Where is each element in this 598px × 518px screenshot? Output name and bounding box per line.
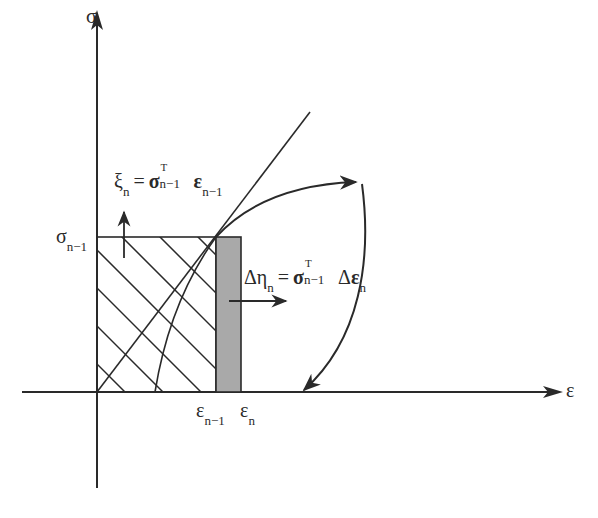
xi-equation: ξn = σTn−1 εn−1 (114, 168, 222, 191)
upper-arc-arrow (216, 182, 356, 237)
eps-prev-label: εn−1 (196, 400, 225, 420)
diagram-canvas (0, 0, 598, 518)
sigma-prev-label: σn−1 (56, 226, 87, 246)
nonlinear-curve (155, 237, 216, 392)
linear-line (97, 112, 310, 392)
eps-n-label: εn (240, 400, 255, 420)
delta-eta-equation: Δηn = σTn−1 Δεn (244, 264, 366, 287)
hatched-region (97, 98, 391, 392)
increment-strip (216, 237, 241, 392)
sigma-axis-label: σ (86, 6, 97, 26)
epsilon-axis-label: ε (566, 380, 574, 400)
